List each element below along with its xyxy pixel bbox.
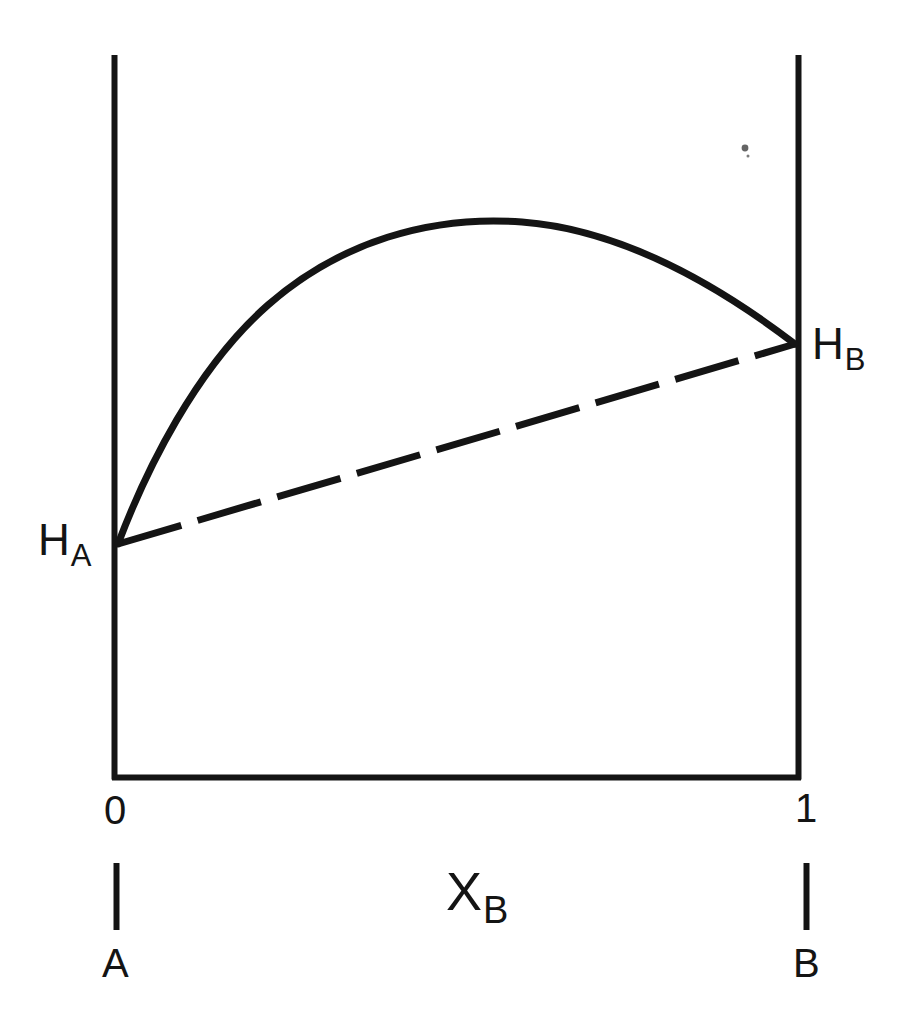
annotation-h-a-main: H	[38, 515, 70, 564]
x-axis-title: XB	[446, 864, 507, 918]
annotation-h-a: HA	[38, 518, 90, 562]
x-tick-label-0: 0	[104, 790, 126, 830]
axes-group	[112, 55, 801, 780]
annotation-h-b-main: H	[812, 319, 844, 368]
annotation-h-b-subscript: B	[845, 342, 866, 377]
chart-figure: HA HB 0 1 A B XB	[0, 0, 909, 1035]
x-axis-title-subscript: B	[483, 889, 508, 931]
annotation-h-a-subscript: A	[71, 538, 92, 573]
endpoint-label-a: A	[102, 943, 129, 983]
x-axis-title-main: X	[446, 861, 482, 921]
x-tick-label-1: 1	[795, 788, 817, 828]
annotation-h-b: HB	[812, 322, 864, 366]
scan-artifact-speck	[742, 145, 750, 158]
ideal-tie-line	[118, 344, 795, 544]
enthalpy-curve	[118, 221, 795, 544]
endpoint-label-b: B	[793, 943, 820, 983]
